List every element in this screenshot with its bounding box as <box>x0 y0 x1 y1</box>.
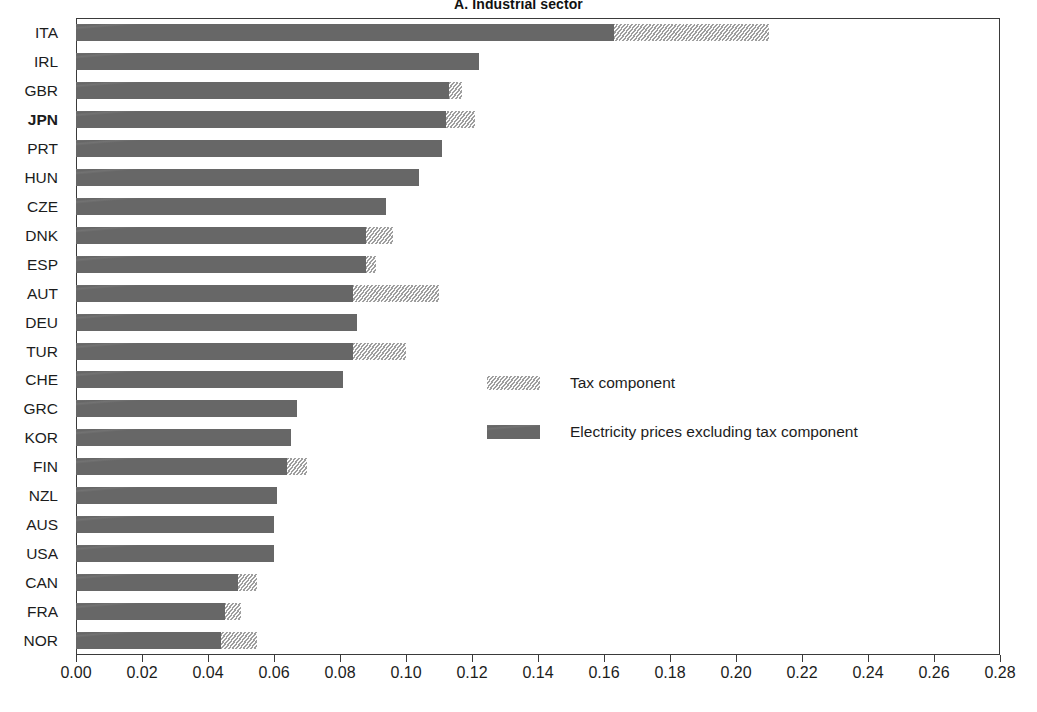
y-axis-label-nzl: NZL <box>29 481 58 510</box>
legend-label-tax-component: Tax component <box>570 374 675 392</box>
y-axis-label-deu: DEU <box>25 308 58 337</box>
bar-row <box>76 250 1000 279</box>
x-axis-tick-label: 0.12 <box>456 664 487 682</box>
bar-row <box>76 337 1000 366</box>
x-axis-tick <box>340 655 341 662</box>
bar-segment-tax-component <box>221 632 257 649</box>
bar-row <box>76 47 1000 76</box>
x-axis-tick <box>1000 655 1001 662</box>
x-axis-tick <box>472 655 473 662</box>
bar-prt <box>76 140 442 157</box>
x-axis-tick-label: 0.20 <box>720 664 751 682</box>
bar-nor <box>76 632 257 649</box>
bar-row <box>76 568 1000 597</box>
chart-title: A. Industrial sector <box>0 0 1037 12</box>
x-axis-tick-label: 0.14 <box>522 664 553 682</box>
x-axis-tick <box>538 655 539 662</box>
bar-segment-electricity-excl-tax <box>76 198 386 215</box>
bar-segment-electricity-excl-tax <box>76 400 297 417</box>
bar-deu <box>76 314 357 331</box>
bar-hun <box>76 169 419 186</box>
bar-irl <box>76 53 479 70</box>
bar-aus <box>76 516 274 533</box>
bar-segment-tax-component <box>238 574 258 591</box>
y-axis-label-kor: KOR <box>24 423 58 452</box>
bar-row <box>76 134 1000 163</box>
bar-segment-tax-component <box>446 111 476 128</box>
bar-segment-tax-component <box>366 256 376 273</box>
x-axis-tick-label: 0.10 <box>390 664 421 682</box>
bar-row <box>76 626 1000 655</box>
y-axis-label-gbr: GBR <box>24 76 58 105</box>
bar-row <box>76 18 1000 47</box>
bars-layer <box>76 18 1000 655</box>
x-axis-tick-label: 0.26 <box>918 664 949 682</box>
bar-ita <box>76 24 769 41</box>
bar-row <box>76 279 1000 308</box>
bar-segment-electricity-excl-tax <box>76 227 366 244</box>
bar-che <box>76 371 343 388</box>
bar-segment-tax-component <box>449 82 462 99</box>
legend-item-tax-component: Tax component <box>487 374 675 392</box>
x-axis-tick <box>142 655 143 662</box>
x-axis-tick-label: 0.04 <box>192 664 223 682</box>
bar-row <box>76 163 1000 192</box>
bar-segment-electricity-excl-tax <box>76 256 366 273</box>
y-axis-label-aut: AUT <box>27 279 58 308</box>
y-axis-label-jpn: JPN <box>28 105 58 134</box>
bar-segment-electricity-excl-tax <box>76 574 238 591</box>
bar-row <box>76 394 1000 423</box>
bar-segment-electricity-excl-tax <box>76 516 274 533</box>
bar-usa <box>76 545 274 562</box>
bar-row <box>76 481 1000 510</box>
bar-segment-electricity-excl-tax <box>76 140 442 157</box>
y-axis-label-esp: ESP <box>27 250 58 279</box>
legend-swatch-electricity-excl-tax <box>487 425 540 439</box>
bar-segment-electricity-excl-tax <box>76 545 274 562</box>
bar-segment-electricity-excl-tax <box>76 371 343 388</box>
bar-cze <box>76 198 386 215</box>
bar-segment-tax-component <box>353 285 439 302</box>
bar-row <box>76 105 1000 134</box>
y-axis-label-cze: CZE <box>27 192 58 221</box>
bar-segment-electricity-excl-tax <box>76 603 225 620</box>
bar-segment-electricity-excl-tax <box>76 24 614 41</box>
x-axis-tick <box>670 655 671 662</box>
bar-segment-electricity-excl-tax <box>76 487 277 504</box>
x-axis-tick-label: 0.24 <box>852 664 883 682</box>
legend-label-electricity-excl-tax: Electricity prices excluding tax compone… <box>570 423 858 441</box>
bar-segment-electricity-excl-tax <box>76 343 353 360</box>
x-axis-tick <box>406 655 407 662</box>
y-axis-label-dnk: DNK <box>25 221 58 250</box>
y-axis-label-usa: USA <box>26 539 58 568</box>
bar-segment-tax-component <box>225 603 242 620</box>
x-axis-tick <box>802 655 803 662</box>
x-axis-tick <box>604 655 605 662</box>
bar-segment-tax-component <box>366 227 392 244</box>
x-axis-tick <box>736 655 737 662</box>
bar-row <box>76 76 1000 105</box>
x-axis-tick-label: 0.16 <box>588 664 619 682</box>
bar-segment-electricity-excl-tax <box>76 111 446 128</box>
x-axis-tick-label: 0.28 <box>984 664 1015 682</box>
bar-row <box>76 308 1000 337</box>
y-axis-label-irl: IRL <box>34 47 58 76</box>
x-axis-tick-label: 0.08 <box>324 664 355 682</box>
bar-segment-electricity-excl-tax <box>76 458 287 475</box>
chart-page: A. Industrial sector ITAIRLGBRJPNPRTHUNC… <box>0 0 1037 712</box>
y-axis-label-ita: ITA <box>35 18 58 47</box>
bar-segment-electricity-excl-tax <box>76 314 357 331</box>
bar-nzl <box>76 487 277 504</box>
y-axis-label-che: CHE <box>25 365 58 394</box>
y-axis-label-prt: PRT <box>27 134 58 163</box>
y-axis-label-aus: AUS <box>26 510 58 539</box>
x-axis-tick <box>76 655 77 662</box>
y-axis-label-nor: NOR <box>24 626 58 655</box>
bar-kor <box>76 429 291 446</box>
bar-segment-electricity-excl-tax <box>76 632 221 649</box>
bar-jpn <box>76 111 475 128</box>
bar-dnk <box>76 227 393 244</box>
x-axis-tick-label: 0.06 <box>258 664 289 682</box>
bar-row <box>76 597 1000 626</box>
x-axis-tick <box>208 655 209 662</box>
